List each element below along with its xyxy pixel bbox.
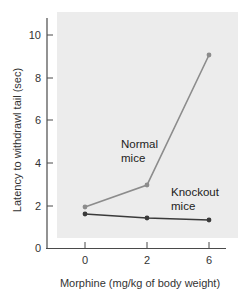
normal-point-6 [207, 53, 212, 58]
plot-background [57, 12, 238, 238]
x-ticks [85, 242, 209, 248]
knockout-point-2 [145, 216, 150, 221]
normal-point-0 [83, 205, 88, 210]
y-axis-label: Latency to withdrawl tail (sec) [11, 68, 23, 212]
y-ticks [47, 35, 53, 206]
normal-mice-label-line2: mice [121, 152, 145, 164]
knockout-point-6 [207, 218, 212, 223]
x-axis-label: Morphine (mg/kg of body weight) [60, 277, 220, 289]
y-tick-8: 8 [35, 72, 41, 84]
y-tick-labels: 10 8 6 4 2 0 [29, 29, 41, 254]
normal-point-2 [145, 183, 150, 188]
knockout-mice-label-line2: mice [171, 200, 195, 212]
y-tick-0: 0 [35, 242, 41, 254]
knockout-point-0 [83, 212, 88, 217]
x-tick-labels: 0 2 6 [82, 254, 212, 266]
x-tick-2: 2 [144, 254, 150, 266]
y-tick-4: 4 [35, 157, 41, 169]
x-tick-6: 6 [206, 254, 212, 266]
x-tick-0: 0 [82, 254, 88, 266]
line-chart: 10 8 6 4 2 0 0 2 6 Morphine (mg/kg of bo… [0, 0, 246, 291]
normal-mice-label-line1: Normal [121, 138, 158, 150]
y-tick-2: 2 [35, 200, 41, 212]
y-tick-6: 6 [35, 114, 41, 126]
y-tick-10: 10 [29, 29, 41, 41]
knockout-mice-label-line1: Knockout [171, 186, 220, 198]
